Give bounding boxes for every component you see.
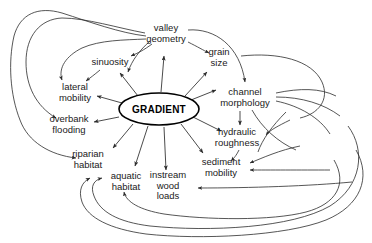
edge-valley-geometry-loop-to-lateral-mobility	[61, 39, 146, 80]
edge-gradient-to-valley-geometry	[161, 56, 164, 92]
gradient-hub-label: GRADIENT	[132, 104, 186, 115]
edge-loop-to-instream-wood-bottom	[124, 160, 340, 219]
diagram-edges-layer	[0, 0, 372, 243]
edge-gradient-to-riparian-habitat	[113, 124, 133, 148]
edge-sinuosity-to-lateral-mobility	[86, 70, 100, 81]
edge-valley-geometry-to-grain-size	[188, 42, 209, 53]
curve-cross-strand-a	[252, 110, 296, 150]
edge-gradient-to-overbank-flooding	[94, 117, 119, 122]
edge-gradient-to-instream-wood	[164, 127, 166, 170]
edge-gradient-to-hydraulic-roughness	[193, 117, 221, 131]
curve-grain-size-right-loop	[241, 55, 325, 118]
edge-gradient-to-grain-size	[185, 72, 207, 96]
edge-hydraulic-roughness-to-sediment-mobility	[231, 150, 239, 161]
edge-sediment-mobility-loop-to-riparian-habitat	[11, 11, 146, 158]
bottom-feedback-edges	[80, 126, 363, 237]
edge-right-loop-to-instream-wood	[198, 182, 352, 188]
right-feedback-edges	[198, 55, 352, 188]
edge-loop-to-aquatic-habitat	[92, 126, 358, 229]
edge-gradient-to-sediment-mobility	[181, 124, 203, 153]
edge-gradient-to-sinuosity	[120, 73, 138, 96]
edge-loop-to-riparian-habitat	[80, 150, 363, 237]
edge-gradient-to-lateral-mobility	[97, 96, 122, 103]
edge-valley-geometry-to-lateral-mobility	[128, 41, 150, 72]
curve-into-channel-morphology-a	[276, 90, 336, 96]
edge-valley-geometry-to-channel-morphology	[188, 30, 245, 82]
curve-cross-strand-b	[258, 112, 286, 152]
edge-gradient-to-channel-morphology	[191, 90, 216, 100]
edge-gradient-to-aquatic-habitat	[135, 126, 148, 166]
diagram-canvas: GRADIENT valley geometry grain size sinu…	[0, 0, 372, 243]
